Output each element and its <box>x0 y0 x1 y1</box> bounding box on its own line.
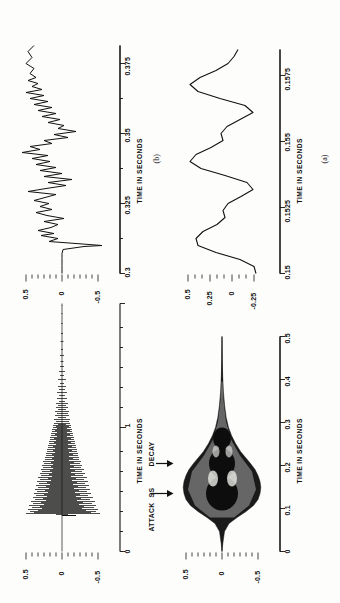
a-top-ytick-0: 0.5 <box>182 569 189 579</box>
panel-b: 0 1 0.5 0 -0.5 TIME IN SECONDS <box>0 0 168 603</box>
plot-b-top <box>16 301 108 551</box>
a-bottom-xtick-0: 0.15 <box>284 265 291 279</box>
a-top-xtick-2: 0.2 <box>284 462 291 472</box>
a-bottom-xtick-2: 0.155 <box>284 132 291 151</box>
a-top-ytick-1: 0 <box>218 571 225 575</box>
a-bottom-ytick-3: -0.25 <box>250 292 257 309</box>
plot-a-top-svg <box>176 329 268 551</box>
plot-a-top-yaxis <box>176 549 268 563</box>
a-bottom-xtick-1: 0.1525 <box>284 199 291 222</box>
plot-a-bottom-svg <box>176 43 268 273</box>
panel-a-label: (a) <box>320 154 329 163</box>
a-top-xtick-1: 0.1 <box>284 505 291 515</box>
a-top-xlabel: TIME IN SECONDS <box>296 418 303 483</box>
figure-canvas: ATTACK SS DECAY 0 0.1 0.2 0.3 0.4 0.5 0.… <box>0 0 340 603</box>
plot-a-bottom <box>176 43 268 273</box>
b-bottom-ytick-2: -0.5 <box>94 290 101 303</box>
b-top-xlabel: TIME IN SECONDS <box>136 418 143 483</box>
b-top-ytick-2: -0.5 <box>94 570 101 583</box>
plot-a-top-xaxis <box>272 329 296 551</box>
a-top-xtick-4: 0.4 <box>284 376 291 386</box>
b-bottom-xtick-1: 0.325 <box>124 195 131 214</box>
a-bottom-xlabel: TIME IN SECONDS <box>296 138 303 203</box>
a-bottom-ytick-2: 0 <box>228 291 235 295</box>
plot-b-top-yaxis <box>16 549 108 563</box>
panel-a: ATTACK SS DECAY 0 0.1 0.2 0.3 0.4 0.5 0.… <box>168 0 340 603</box>
b-top-xtick-0: 0 <box>124 549 131 553</box>
plot-a-bottom-yaxis <box>176 271 268 285</box>
plot-b-bottom-svg <box>16 41 108 273</box>
plot-b-bottom-xaxis <box>112 41 136 273</box>
b-bottom-ytick-1: 0 <box>58 291 65 295</box>
panel-b-label: (b) <box>152 154 161 163</box>
scanned-figure-page: ATTACK SS DECAY 0 0.1 0.2 0.3 0.4 0.5 0.… <box>0 0 340 603</box>
plot-b-top-svg <box>16 301 108 551</box>
b-top-ytick-0: 0.5 <box>22 569 29 579</box>
b-bottom-xlabel: TIME IN SECONDS <box>136 138 143 203</box>
b-top-ytick-1: 0 <box>58 571 65 575</box>
b-top-xtick-1: 1 <box>124 423 131 427</box>
a-top-xtick-3: 0.3 <box>284 419 291 429</box>
b-bottom-xtick-2: 0.35 <box>124 128 131 142</box>
a-top-xtick-5: 0.5 <box>284 333 291 343</box>
b-bottom-xtick-0: 0.3 <box>124 267 131 277</box>
a-top-xtick-0: 0 <box>284 549 291 553</box>
plot-b-bottom-yaxis <box>16 271 108 285</box>
a-bottom-ytick-0: 0.5 <box>184 289 191 299</box>
b-bottom-xtick-3: 0.375 <box>124 56 131 75</box>
a-top-ytick-2: -0.5 <box>254 570 261 583</box>
a-bottom-xtick-3: 0.1575 <box>284 67 291 90</box>
plot-b-bottom <box>16 41 108 273</box>
plot-a-top <box>176 329 268 551</box>
a-bottom-ytick-1: 0.25 <box>206 291 213 305</box>
b-bottom-ytick-0: 0.5 <box>22 289 29 299</box>
